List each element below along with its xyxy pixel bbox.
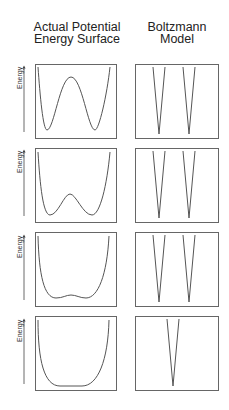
panel-1: Energy	[16, 65, 219, 139]
energy-axis: Energy	[16, 66, 25, 132]
energy-axis: Energy	[16, 235, 25, 300]
panel-3: Energy	[16, 233, 219, 307]
energy-axis-label: Energy	[16, 235, 24, 258]
energy-axis: Energy	[16, 319, 25, 384]
boltzmann-box	[136, 317, 219, 391]
boltzmann-well-2	[183, 235, 195, 302]
boltzmann-well-1	[153, 235, 165, 302]
surface-box	[36, 317, 117, 391]
boltzmann-box	[136, 149, 219, 223]
surface-box	[36, 149, 117, 223]
surface-curve	[38, 152, 110, 215]
surface-curve	[38, 236, 109, 298]
boltzmann-well-1	[153, 151, 165, 218]
energy-axis-label: Energy	[16, 150, 24, 173]
boltzmann-box	[136, 233, 219, 307]
boltzmann-box	[136, 65, 219, 139]
energy-axis-label: Energy	[16, 66, 24, 89]
boltzmann-well-1	[153, 67, 165, 134]
energy-axis: Energy	[16, 150, 25, 216]
boltzmann-well-2	[183, 151, 195, 218]
energy-diagram: Energy Energy Energy Energ	[0, 0, 229, 410]
surface-curve	[38, 320, 109, 386]
surface-curve	[38, 67, 110, 130]
panel-2: Energy	[16, 149, 219, 223]
energy-axis-label: Energy	[16, 319, 24, 342]
boltzmann-well-2	[183, 67, 195, 134]
panel-4: Energy	[16, 317, 219, 391]
boltzmann-well-1	[167, 319, 179, 386]
